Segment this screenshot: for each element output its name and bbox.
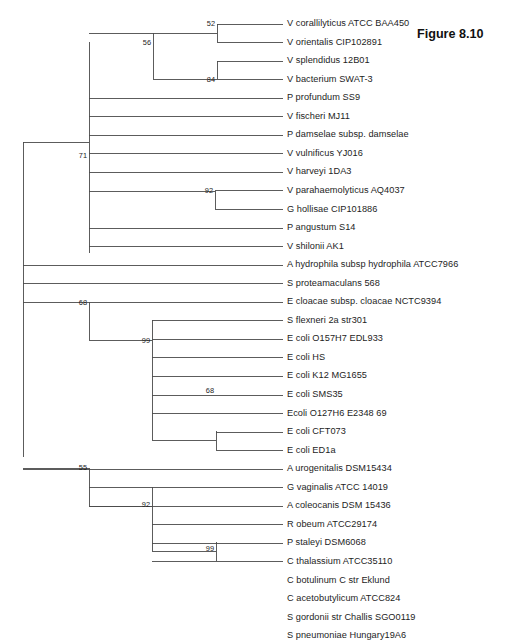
taxon-label: V vulnificus YJ016: [287, 149, 363, 158]
taxon-label: G hollisae CIP101886: [287, 205, 377, 214]
figure-caption: Figure 8.10: [417, 27, 484, 41]
taxon-label: C thalassium ATCC35110: [287, 557, 392, 566]
bootstrap-value: 84: [201, 76, 215, 83]
taxon-label: P angustum S14: [287, 223, 355, 232]
taxon-label: E coli SMS35: [287, 390, 343, 399]
taxon-label: E coli O157H7 EDL933: [287, 335, 383, 344]
taxon-label: E coli HS: [287, 353, 325, 362]
taxon-label: V shilonii AK1: [287, 242, 344, 251]
bootstrap-value: 92: [136, 501, 150, 508]
taxon-label: P staleyi DSM6068: [287, 539, 366, 548]
bootstrap-value: 99: [200, 545, 214, 552]
taxon-label: C botulinum C str Eklund: [287, 576, 390, 585]
taxon-label: V parahaemolyticus AQ4037: [287, 186, 405, 195]
taxon-label: V bacterium SWAT-3: [287, 75, 373, 84]
bootstrap-value: 92: [199, 187, 213, 194]
taxon-label: V splendidus 12B01: [287, 56, 370, 65]
taxon-label: A coleocanis DSM 15436: [287, 502, 391, 511]
taxon-label: V harveyi 1DA3: [287, 168, 352, 177]
taxon-label: V orientalis CIP102891: [287, 38, 382, 47]
taxon-label: E cloacae subsp. cloacae NCTC9394: [287, 298, 441, 307]
taxon-label: P damselae subsp. damselae: [287, 131, 409, 140]
bootstrap-value: 55: [73, 464, 87, 471]
taxon-label: S gordonii str Challis SGO0119: [287, 613, 415, 622]
taxon-label: A urogenitalis DSM15434: [287, 465, 392, 474]
bootstrap-value: 56: [137, 39, 151, 46]
tree-lines-group: [23, 24, 283, 572]
taxon-label: C acetobutylicum ATCC824: [287, 594, 400, 603]
taxon-label: S proteamaculans 568: [287, 279, 380, 288]
taxon-label: P profundum SS9: [287, 94, 360, 103]
taxon-label: Ecoli O127H6 E2348 69: [287, 409, 387, 418]
taxon-label: V fischeri MJ11: [287, 112, 350, 121]
bootstrap-value: 68: [73, 299, 87, 306]
taxon-label: E coli ED1a: [287, 446, 336, 455]
bootstrap-value: 71: [73, 152, 87, 159]
taxon-label: A hydrophila subsp hydrophila ATCC7966: [287, 261, 458, 270]
taxon-label: R obeum ATCC29174: [287, 520, 377, 529]
taxon-label: E coli CFT073: [287, 427, 346, 436]
taxon-label: S flexneri 2a str301: [287, 316, 367, 325]
bootstrap-value: 52: [201, 20, 215, 27]
taxon-label: E coli K12 MG1655: [287, 372, 367, 381]
taxon-label: G vaginalis ATCC 14019: [287, 483, 388, 492]
taxon-label: V corallilyticus ATCC BAA450: [287, 19, 409, 28]
bootstrap-value: 68: [200, 387, 214, 394]
bootstrap-value: 99: [136, 337, 150, 344]
taxon-label: S pneumoniae Hungary19A6: [287, 632, 406, 641]
